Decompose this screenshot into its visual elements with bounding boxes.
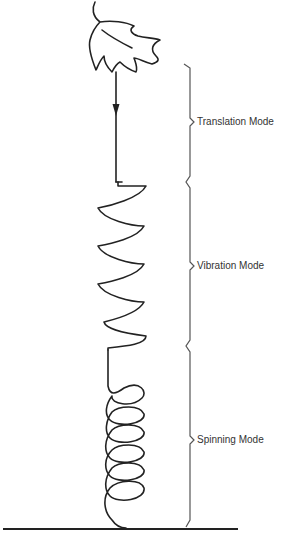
leaf-icon	[89, 2, 160, 72]
spinning-path	[105, 350, 144, 528]
mode-bracket	[184, 64, 194, 527]
leaf-fall-diagram: Translation Mode Vibration Mode Spinning…	[0, 0, 294, 539]
translation-path	[113, 72, 123, 182]
spinning-mode-label: Spinning Mode	[197, 434, 264, 446]
vibration-mode-label: Vibration Mode	[197, 260, 264, 272]
vibration-path	[98, 182, 146, 350]
arrow-down-icon	[113, 104, 120, 116]
translation-mode-label: Translation Mode	[197, 116, 274, 128]
